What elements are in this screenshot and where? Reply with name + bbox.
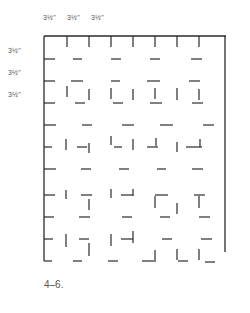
grid-marks — [44, 36, 215, 262]
pattern-grid-diagram — [0, 0, 250, 313]
figure-caption: 4–6. — [44, 279, 63, 290]
grid-frame — [44, 36, 226, 261]
